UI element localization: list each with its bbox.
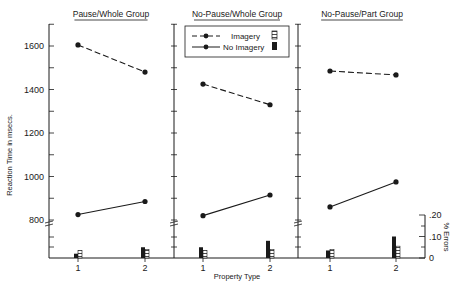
data-point [393,179,398,184]
y-tick-label: 1200 [24,128,44,138]
legend-marker-imagery [204,34,209,39]
data-point [327,204,332,209]
y-tick-label: 1400 [24,85,44,95]
error-bar-imagery [396,246,400,258]
error-bar-no-imagery [141,247,145,258]
imagery-line [203,84,270,105]
x-tick-label: 2 [142,263,147,273]
x-axis-label: Property Type [214,272,261,281]
legend-box [185,26,289,57]
legend-bar-imagery [272,31,277,39]
legend-bar-no-imagery [272,42,277,50]
x-tick-label: 1 [200,263,205,273]
imagery-line [78,45,145,72]
y2-tick-label: .10 [429,232,442,242]
data-point [75,42,80,47]
panel-1: Pause/Whole Group12 [73,9,150,273]
legend-label-imagery: Imagery [231,32,260,41]
x-tick-label: 2 [267,263,272,273]
data-point [200,213,205,218]
data-point [142,70,147,75]
y2-tick-label: 0 [429,253,434,263]
panel-title: No-Pause/Part Group [321,9,403,19]
panel-title: Pause/Whole Group [73,9,150,19]
data-point [142,199,147,204]
data-point [200,81,205,86]
imagery-line [330,71,396,75]
chart-figure: Reaction Time in msecs. Property Type % … [0,0,461,296]
x-tick-label: 1 [327,263,332,273]
no-imagery-line [330,182,396,207]
data-point [327,68,332,73]
error-bar-no-imagery [199,247,203,258]
error-bar-imagery [203,250,207,258]
y-tick-label: 1000 [24,172,44,182]
no-imagery-line [203,195,270,216]
y-axis-label: Reaction Time in msecs. [5,114,14,196]
x-tick-label: 2 [393,263,398,273]
error-bar-no-imagery [326,250,330,258]
y-tick-label: 1600 [24,41,44,51]
data-point [75,212,80,217]
y-tick-label: 800 [29,215,44,225]
data-point [393,72,398,77]
error-bar-imagery [330,249,334,258]
panel-3: No-Pause/Part Group12 [321,9,403,273]
data-point [267,192,272,197]
x-tick-label: 1 [75,263,80,273]
legend-marker-no-imagery [204,45,209,50]
data-point [267,102,272,107]
y2-axis-label: % Errors [442,222,451,251]
legend: Imagery No Imagery [185,26,289,57]
error-bar-no-imagery [392,237,396,259]
error-bar-imagery [145,249,149,258]
no-imagery-line [78,202,145,215]
axes: 80010001200140016000.10.20 [24,24,442,263]
y2-tick-label: .20 [429,210,442,220]
error-bar-no-imagery [74,254,78,258]
panel-title: No-Pause/Whole Group [192,9,283,19]
error-bar-no-imagery [266,241,270,258]
legend-label-no-imagery: No Imagery [223,43,264,52]
error-bar-imagery [270,249,274,258]
error-bar-imagery [78,250,82,258]
